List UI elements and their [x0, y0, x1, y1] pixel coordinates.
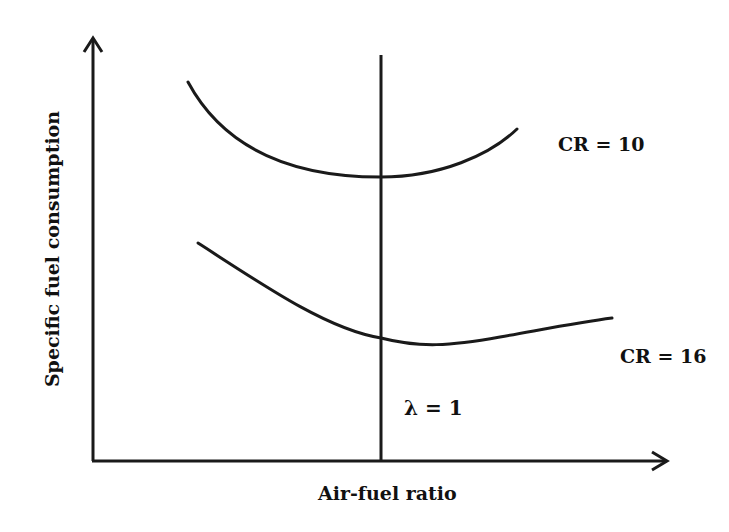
lambda-label: λ = 1	[404, 396, 463, 420]
series-label-cr-16: CR = 16	[620, 345, 707, 367]
curve-cr-10	[188, 82, 517, 177]
y-axis-label: Specific fuel consumption	[41, 111, 63, 387]
x-axis-label: Air-fuel ratio	[318, 482, 457, 504]
series-label-cr-10: CR = 10	[558, 133, 645, 155]
chart-canvas	[0, 0, 729, 532]
curve-cr-16	[198, 243, 612, 345]
